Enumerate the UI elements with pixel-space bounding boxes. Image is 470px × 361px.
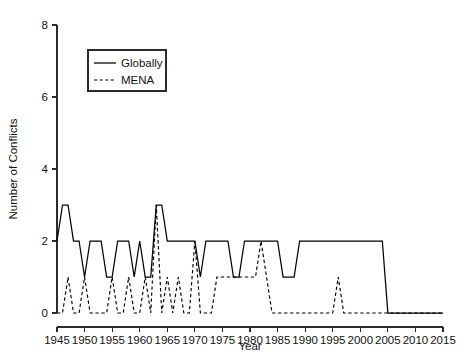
y-tick-label-0: 0 [42, 307, 48, 319]
x-axis-title: Year [238, 340, 261, 352]
y-axis-ticks [52, 25, 57, 313]
x-tick-label-1960: 1960 [127, 334, 153, 346]
conflicts-line-chart: 02468 1945195019551960196519701975198019… [0, 0, 470, 361]
legend-label-mena: MENA [121, 74, 155, 86]
y-tick-label-8: 8 [42, 19, 48, 31]
x-axis-ticks [57, 327, 443, 332]
x-tick-label-1950: 1950 [72, 334, 98, 346]
y-axis-tick-labels: 02468 [42, 19, 49, 319]
x-tick-label-1945: 1945 [44, 334, 70, 346]
y-tick-label-4: 4 [42, 163, 49, 175]
x-tick-label-2005: 2005 [375, 334, 401, 346]
y-axis-title: Number of Conflicts [7, 118, 19, 219]
x-tick-label-1955: 1955 [99, 334, 125, 346]
x-tick-label-2010: 2010 [403, 334, 429, 346]
x-tick-label-1985: 1985 [265, 334, 291, 346]
x-tick-label-1975: 1975 [210, 334, 236, 346]
chart-legend: Globally MENA [88, 50, 166, 91]
chart-canvas: 02468 1945195019551960196519701975198019… [0, 0, 470, 361]
x-tick-label-1990: 1990 [292, 334, 318, 346]
x-tick-label-2015: 2015 [430, 334, 456, 346]
y-tick-label-6: 6 [42, 91, 48, 103]
legend-label-globally: Globally [121, 57, 163, 69]
x-tick-label-1995: 1995 [320, 334, 346, 346]
y-tick-label-2: 2 [42, 235, 48, 247]
x-tick-label-1965: 1965 [154, 334, 180, 346]
x-tick-label-1970: 1970 [182, 334, 208, 346]
x-tick-label-2000: 2000 [347, 334, 373, 346]
